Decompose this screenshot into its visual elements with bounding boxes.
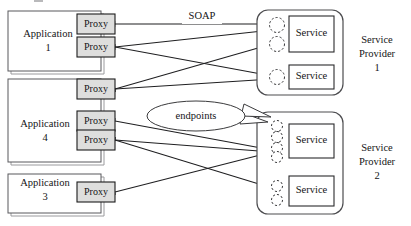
diagram-canvas: Application 1 Proxy Proxy Application 4 … xyxy=(0,0,411,226)
endpoints-callout-tail-upper xyxy=(241,104,271,117)
sp1-service-1-endpoint-1[interactable] xyxy=(270,18,285,33)
link-app4proxy1-sp1service2ep xyxy=(115,79,272,89)
service-provider-1-label-line1: Service xyxy=(361,34,393,45)
application-4-label-line2: 4 xyxy=(42,132,48,143)
link-app4proxy2-sp2service2ep xyxy=(115,140,272,188)
application-3-label-line2: 3 xyxy=(42,191,47,202)
application-4[interactable]: Application 4 Proxy Proxy Proxy xyxy=(8,79,115,165)
service-provider-1-label-line3: 1 xyxy=(374,62,379,73)
app1-proxy-1-label: Proxy xyxy=(84,18,108,29)
service-provider-2-label-line2: Provider xyxy=(359,156,396,167)
application-1-label-line2: 1 xyxy=(45,42,50,53)
soap-annotation: SOAP xyxy=(182,10,222,24)
sp1-service-1-label: Service xyxy=(296,27,328,38)
endpoints-callout[interactable]: endpoints xyxy=(147,101,271,131)
sp2-service-1-endpoint-2[interactable] xyxy=(272,132,283,143)
app4-proxy-3-label: Proxy xyxy=(84,134,108,145)
sp2-service-1-endpoint-4[interactable] xyxy=(272,152,283,163)
service-provider-2-label-line3: 2 xyxy=(374,170,379,181)
sp2-service-1-label: Service xyxy=(296,134,328,145)
soap-label: SOAP xyxy=(189,10,216,21)
service-provider-2[interactable]: Service Service Service Provider 2 xyxy=(257,112,396,214)
sp2-service-2-endpoint-2[interactable] xyxy=(272,195,283,206)
endpoints-label: endpoints xyxy=(176,110,217,121)
app1-proxy-2-label: Proxy xyxy=(84,41,108,52)
architecture-diagram: Application 1 Proxy Proxy Application 4 … xyxy=(0,0,411,226)
sp2-service-1-endpoint-1[interactable] xyxy=(272,121,283,132)
sp2-service-2-label: Service xyxy=(296,184,328,195)
link-app1proxy2-sp1service2ep xyxy=(115,47,272,76)
application-1[interactable]: Application 1 Proxy Proxy xyxy=(8,11,115,74)
application-1-label-line1: Application xyxy=(23,28,73,39)
link-app4proxy1-sp1ep3 xyxy=(115,44,272,89)
app3-proxy-1-label: Proxy xyxy=(84,186,108,197)
link-app1proxy2-sp1ep2 xyxy=(115,30,272,47)
app4-proxy-1-label: Proxy xyxy=(84,83,108,94)
sp1-service-2-endpoint-1[interactable] xyxy=(270,70,285,85)
service-provider-1[interactable]: Service Service Service Provider 1 xyxy=(257,10,396,95)
link-app3proxy-sp2ep xyxy=(115,152,272,192)
sp1-service-2-label: Service xyxy=(296,70,328,81)
application-3[interactable]: Application 3 Proxy xyxy=(8,174,115,216)
crop-artifact xyxy=(34,0,43,2)
application-3-label-line1: Application xyxy=(20,177,70,188)
app4-proxy-2-label: Proxy xyxy=(84,115,108,126)
service-provider-2-label-line1: Service xyxy=(361,142,393,153)
sp1-service-1-endpoint-2[interactable] xyxy=(270,37,285,52)
service-provider-1-label-line2: Provider xyxy=(359,48,396,59)
application-4-label-line1: Application xyxy=(20,118,70,129)
sp2-service-2-endpoint-1[interactable] xyxy=(272,181,283,192)
